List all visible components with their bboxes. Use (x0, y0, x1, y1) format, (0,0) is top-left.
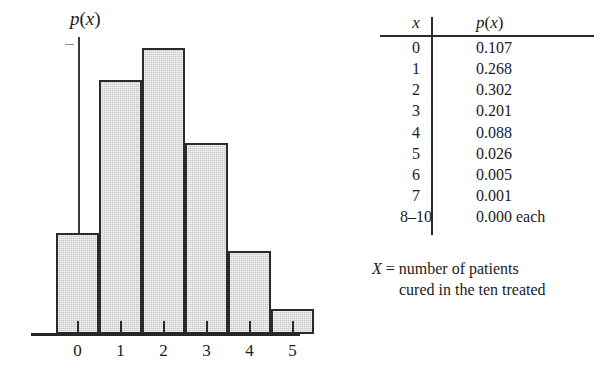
table-cell-px: 0.268 (462, 58, 594, 79)
probability-table: x p(x) 00.10710.26820.30230.20140.08850.… (380, 12, 594, 228)
y-axis-label-paren-close: ) (94, 8, 100, 29)
caption-line1: number of patients (399, 260, 519, 277)
x-tick-label: 4 (238, 341, 262, 361)
table-cell-px: 0.107 (462, 37, 594, 58)
bar (99, 80, 142, 334)
x-tick (163, 321, 165, 334)
histogram-figure: p(x) 0 1 2 3 4 5 (0, 0, 330, 376)
table-row: 40.088 (380, 122, 594, 143)
table-header: x p(x) (380, 12, 594, 37)
column-header-px-var: p (476, 13, 485, 32)
table-cell-x: 3 (380, 100, 462, 121)
table-cell-x: 5 (380, 143, 462, 164)
table-cell-x: 2 (380, 79, 462, 100)
caption-variable: X (372, 260, 382, 277)
y-axis-label-var: p (70, 8, 80, 29)
column-header-px-paren-close: ) (498, 13, 504, 32)
table-row: 30.201 (380, 100, 594, 121)
table-row: 50.026 (380, 143, 594, 164)
table-cell-px: 0.088 (462, 122, 594, 143)
column-header-x: x (380, 12, 462, 35)
x-tick-label: 2 (152, 341, 176, 361)
bar (56, 233, 99, 334)
table-cell-x: 6 (380, 164, 462, 185)
x-tick-label: 3 (195, 341, 219, 361)
y-axis-label: p(x) (70, 8, 101, 30)
bar (142, 48, 185, 334)
figure-caption: X = number of patients cured in the ten … (372, 258, 546, 300)
table-row: 00.107 (380, 37, 594, 58)
table-cell-x: 0 (380, 37, 462, 58)
table-cell-x: 1 (380, 58, 462, 79)
column-header-px-arg: x (490, 13, 498, 32)
table-row: 10.268 (380, 58, 594, 79)
table-row: 70.001 (380, 185, 594, 206)
x-tick (249, 321, 251, 334)
y-axis-label-arg: x (86, 8, 94, 29)
caption-line2: cured in the ten treated (372, 279, 546, 300)
table-column-divider (431, 17, 433, 235)
y-axis-top-tick (65, 44, 74, 45)
table-cell-x: 8–10 (380, 206, 462, 227)
x-tick-label: 1 (109, 341, 133, 361)
probability-table-panel: x p(x) 00.10710.26820.30230.20140.08850.… (330, 0, 606, 376)
table-body: 00.10710.26820.30230.20140.08850.02660.0… (380, 37, 594, 228)
table-cell-x: 4 (380, 122, 462, 143)
x-tick (120, 321, 122, 334)
bar (185, 143, 228, 334)
table-row: 60.005 (380, 164, 594, 185)
table-cell-px: 0.001 (462, 185, 594, 206)
table-cell-px: 0.302 (462, 79, 594, 100)
table-cell-x: 7 (380, 185, 462, 206)
table-cell-px: 0.000 each (462, 206, 594, 227)
plot-area: p(x) 0 1 2 3 4 5 (0, 0, 330, 376)
x-tick-label: 5 (281, 341, 305, 361)
table-header-row: x p(x) (380, 12, 594, 35)
x-tick-label: 0 (66, 341, 90, 361)
x-tick (292, 321, 294, 334)
x-tick (77, 321, 79, 334)
table-row: 8–100.000 each (380, 206, 594, 227)
column-header-px: p(x) (462, 12, 594, 35)
x-axis-line (31, 333, 300, 336)
table-cell-px: 0.026 (462, 143, 594, 164)
table-cell-px: 0.005 (462, 164, 594, 185)
x-tick (206, 321, 208, 334)
table-row: 20.302 (380, 79, 594, 100)
table-cell-px: 0.201 (462, 100, 594, 121)
caption-equals: = (386, 260, 395, 277)
